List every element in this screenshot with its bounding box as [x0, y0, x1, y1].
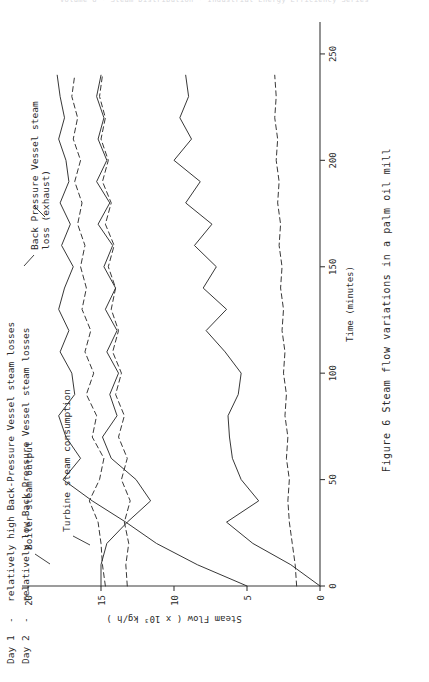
legend-key: Day 1	[5, 635, 16, 664]
annotations: Boiler steam outputTurbine steam consump…	[23, 101, 90, 564]
x-tick-label: 250	[328, 46, 338, 62]
x-tick-label: 0	[328, 583, 338, 588]
legend-dash: -	[20, 617, 31, 623]
x-tick-label: 100	[328, 365, 338, 381]
legend-dash: -	[5, 617, 16, 623]
legend-text: relatively low Back-Pressure Vessel stea…	[20, 327, 31, 602]
y-tick-label: 15	[97, 595, 107, 606]
series-line	[174, 75, 320, 586]
series-line	[100, 75, 131, 586]
x-tick-label: 50	[328, 474, 338, 485]
y-axis-label: Steam Flow ( x 10³ kg/h )	[106, 614, 241, 624]
annotation-bpv_l2: loss (exhaust)	[40, 170, 51, 250]
annotation-bpv_l1: Back Pressure Vessel steam	[29, 101, 40, 250]
annotation-leader-turbine	[73, 536, 90, 545]
figure-page: 050100150200250Time (minutes)05101520Ste…	[0, 0, 429, 682]
series-line	[97, 75, 151, 586]
series-line	[275, 75, 297, 586]
y-tick-label: 5	[243, 595, 253, 600]
x-tick-label: 200	[328, 152, 338, 168]
annotation-leader-bpv_l1	[24, 255, 34, 266]
legend-text: relatively high Back-Pressure Vessel ste…	[5, 322, 16, 602]
caption-text: Figure 6 Steam flow variations in a palm…	[381, 148, 392, 472]
series-line	[72, 75, 106, 586]
series-group	[57, 75, 320, 586]
rotated-page-wrapper: 050100150200250Time (minutes)05101520Ste…	[0, 0, 429, 682]
annotation-turbine: Turbine steam consumption	[61, 389, 72, 532]
steam-flow-chart: 050100150200250Time (minutes)05101520Ste…	[0, 0, 429, 682]
x-axis-label: Time (minutes)	[345, 266, 355, 342]
legend-key: Day 2	[20, 635, 31, 664]
y-tick-label: 0	[316, 595, 326, 600]
legend: Day 1-relatively high Back-Pressure Vess…	[5, 322, 31, 664]
x-axis-ticks: 050100150200250Time (minutes)	[320, 46, 355, 589]
x-tick-label: 150	[328, 259, 338, 275]
y-tick-label: 10	[170, 595, 180, 606]
figure-caption: Figure 6 Steam flow variations in a palm…	[381, 148, 392, 472]
y-axis-ticks: 05101520	[24, 586, 326, 606]
annotation-leader-boiler	[35, 554, 50, 564]
series-line	[57, 75, 247, 586]
